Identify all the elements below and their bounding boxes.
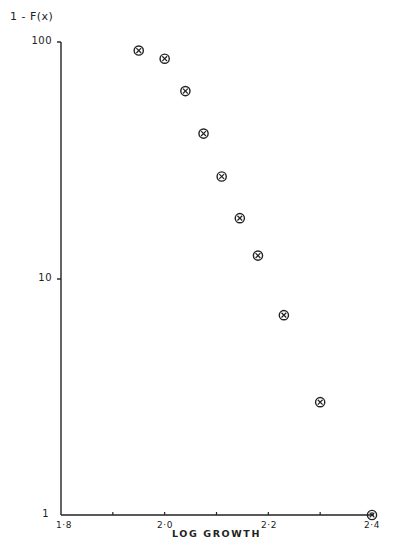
y-tick-label-10: 10: [22, 272, 52, 283]
y-tick-label-1: 1: [19, 508, 49, 519]
circled-x-marker: [199, 129, 208, 138]
circled-x-marker: [235, 214, 244, 223]
x-tick-label-1-8: 1·8: [49, 520, 79, 530]
y-tick-label-100: 100: [22, 35, 52, 46]
x-axis-label: LOG GROWTH: [172, 528, 261, 539]
circled-x-marker: [279, 311, 288, 320]
plot-area: [0, 0, 400, 558]
circled-x-marker: [181, 86, 190, 95]
circled-x-marker: [134, 46, 143, 55]
axes: [57, 42, 374, 515]
circled-x-marker: [160, 54, 169, 63]
y-axis-label: 1 - F(x): [10, 10, 53, 23]
circled-x-marker: [253, 251, 262, 260]
data-points: [134, 46, 376, 520]
circled-x-marker: [316, 398, 325, 407]
x-tick-label-2-4: 2·4: [357, 520, 387, 530]
circled-x-marker: [217, 172, 226, 181]
